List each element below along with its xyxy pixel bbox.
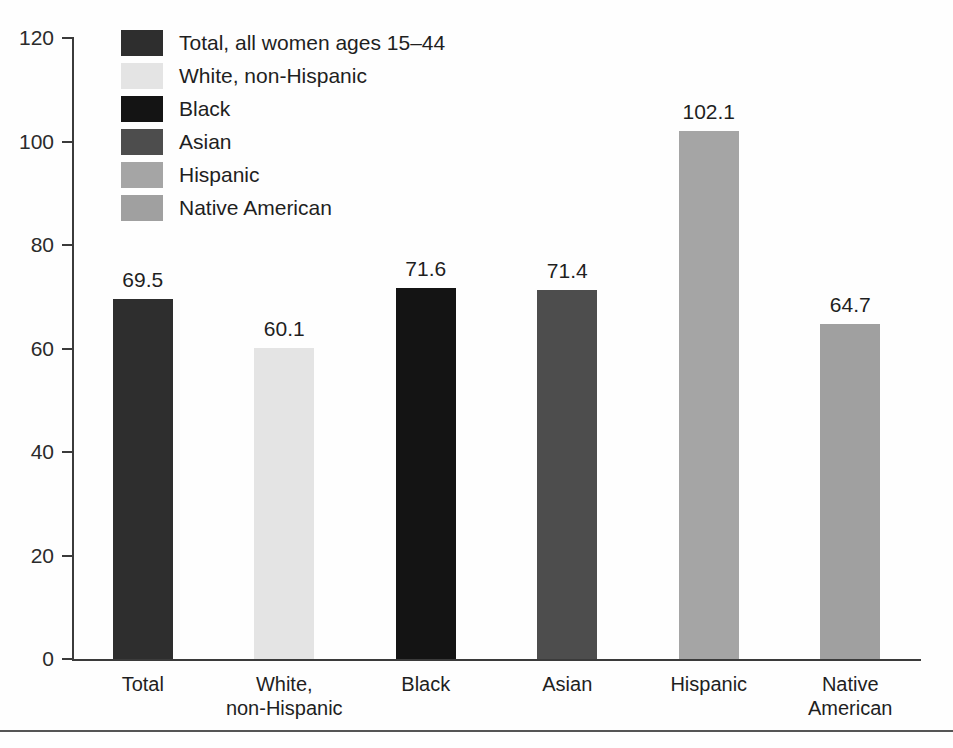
bar-value-label: 64.7 [780,294,920,315]
legend-label: Asian [179,131,232,152]
chart-figure: 020406080100120 69.560.171.671.4102.164.… [0,0,953,748]
x-axis-line [72,659,921,661]
y-axis-tick-label: 40 [0,441,54,462]
x-axis-tick-label: Black [346,672,506,696]
y-axis-tick [62,244,74,246]
y-axis-tick [62,348,74,350]
bar [113,299,173,659]
y-axis-tick [62,141,74,143]
y-axis-tick [62,451,74,453]
legend-swatch [121,30,163,56]
bar [679,131,739,659]
x-axis-tick-label: Asian [487,672,647,696]
bar-value-label: 69.5 [73,269,213,290]
legend-item: Hispanic [121,158,445,191]
chart-legend: Total, all women ages 15–44White, non-Hi… [121,26,445,224]
x-axis-tick-label: Hispanic [629,672,789,696]
legend-swatch [121,129,163,155]
y-axis-tick-label: 80 [0,234,54,255]
legend-item: Asian [121,125,445,158]
y-axis-line [72,38,74,661]
legend-swatch [121,162,163,188]
x-axis-tick-label-line: Total [63,672,223,696]
y-axis-tick [62,555,74,557]
bar [396,288,456,659]
y-axis-tick-label: 100 [0,131,54,152]
x-axis-tick-label-line: Asian [487,672,647,696]
y-axis-tick-label: 120 [0,27,54,48]
bar-value-label: 71.4 [497,260,637,281]
x-axis-tick-label-line: Black [346,672,506,696]
x-axis-tick-label: NativeAmerican [770,672,930,721]
bar [254,348,314,659]
legend-swatch [121,63,163,89]
y-axis-tick-label: 60 [0,338,54,359]
legend-swatch [121,96,163,122]
x-axis-tick-label: Total [63,672,223,696]
legend-item: Black [121,92,445,125]
legend-swatch [121,195,163,221]
x-axis-tick-label-line: White, [204,672,364,696]
y-axis-tick [62,37,74,39]
bar-value-label: 60.1 [214,318,354,339]
x-axis-tick-label-line: American [770,696,930,720]
legend-label: White, non-Hispanic [179,65,367,86]
footer-rule [0,730,953,732]
legend-label: Native American [179,197,332,218]
x-axis-tick-label-line: Native [770,672,930,696]
bar [820,324,880,659]
x-axis-tick-label-line: non-Hispanic [204,696,364,720]
bar-value-label: 71.6 [356,258,496,279]
legend-label: Total, all women ages 15–44 [179,32,445,53]
y-axis-tick-label: 0 [0,648,54,669]
bar-value-label: 102.1 [639,101,779,122]
bar [537,290,597,659]
legend-label: Black [179,98,230,119]
x-axis-tick-label: White,non-Hispanic [204,672,364,721]
legend-item: Total, all women ages 15–44 [121,26,445,59]
y-axis-tick [62,658,74,660]
legend-item: White, non-Hispanic [121,59,445,92]
x-axis-tick-label-line: Hispanic [629,672,789,696]
legend-item: Native American [121,191,445,224]
legend-label: Hispanic [179,164,260,185]
y-axis-tick-label: 20 [0,545,54,566]
